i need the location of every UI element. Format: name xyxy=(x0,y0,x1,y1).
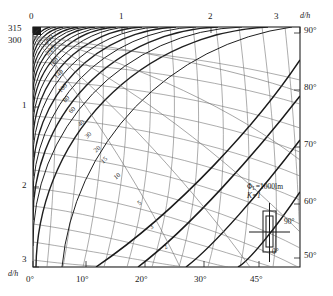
left-tick-1: 1 xyxy=(22,101,27,110)
bottom-tick-30: 30° xyxy=(194,275,207,284)
corner-label-300: 300 xyxy=(8,36,22,45)
corner-label-315: 315 xyxy=(8,24,22,33)
bottom-tick-0: 0° xyxy=(26,275,34,284)
right-tick-80: 80° xyxy=(304,83,317,92)
right-tick-90: 90° xyxy=(304,26,317,35)
luminaire-angle-0-label: 0° xyxy=(272,248,279,256)
left-axis-label: d/h xyxy=(8,270,18,278)
top-tick-0: 0 xyxy=(29,12,34,21)
right-tick-70: 70° xyxy=(304,140,317,149)
top-tick-3: 3 xyxy=(274,12,279,21)
top-tick-2: 2 xyxy=(208,12,213,21)
isolux-diagram: 0 1 2 3 d/h 315 300 1 2 3 d/h 0° 10° 20°… xyxy=(0,0,333,296)
right-tick-60: 60° xyxy=(304,197,317,206)
bottom-tick-20: 20° xyxy=(135,275,148,284)
left-tick-3: 3 xyxy=(22,255,27,264)
top-tick-1: 1 xyxy=(119,12,124,21)
top-axis-label: d/h xyxy=(300,12,310,20)
flux-equation: =1000lm xyxy=(256,182,283,191)
k-factor-annotation: K=1 xyxy=(247,192,261,200)
right-tick-50: 50° xyxy=(304,251,317,260)
bottom-tick-10: 10° xyxy=(76,275,89,284)
luminaire-angle-90-label: 90° xyxy=(284,218,295,226)
bottom-tick-45: 45° xyxy=(250,275,263,284)
left-tick-2: 2 xyxy=(22,181,27,190)
